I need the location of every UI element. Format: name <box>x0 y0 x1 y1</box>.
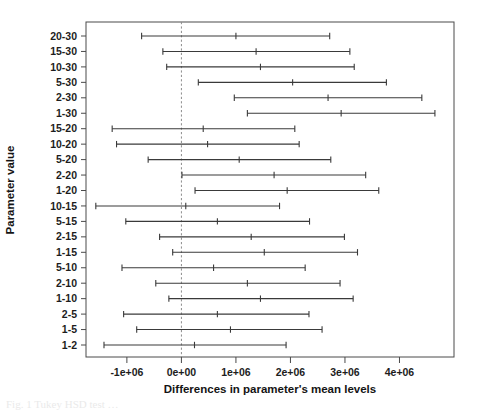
interval-row <box>167 64 355 70</box>
y-axis-tick-label: 15-30 <box>50 45 77 57</box>
y-axis-tick-label: 2-30 <box>56 91 77 103</box>
y-axis-tick-label: 5-10 <box>56 261 77 273</box>
y-axis-tick-label: 1-15 <box>56 246 77 258</box>
y-axis-tick-label: 10-30 <box>50 61 77 73</box>
y-axis-tick-label: 1-5 <box>62 323 77 335</box>
y-axis-tick-label: 10-20 <box>50 138 77 150</box>
y-axis-tick-label: 5-30 <box>56 76 77 88</box>
y-axis-tick-label: 5-15 <box>56 215 77 227</box>
x-axis-tick-label: 0e+00 <box>167 366 197 378</box>
interval-row <box>160 234 345 240</box>
x-axis-tick-label: 1e+06 <box>221 366 251 378</box>
interval-row <box>126 218 310 224</box>
interval-row <box>156 280 340 286</box>
confidence-interval-plot: 20-3015-3010-305-302-301-3015-2010-205-2… <box>0 0 477 417</box>
interval-row <box>104 342 286 348</box>
interval-row <box>182 172 366 178</box>
y-axis-tick-label: 2-10 <box>56 277 77 289</box>
y-axis-tick-label: 2-15 <box>56 230 77 242</box>
interval-row <box>198 79 386 85</box>
x-axis-tick-label: 4e+06 <box>385 366 415 378</box>
interval-row <box>195 187 379 193</box>
y-axis-title: Parameter value <box>4 146 16 235</box>
y-axis-tick-label: 2-20 <box>56 169 77 181</box>
figure-caption-fragment: Fig. 1 Tukey HSD test … <box>6 398 246 412</box>
y-axis-tick-label: 2-5 <box>62 308 77 320</box>
interval-row <box>163 48 350 54</box>
plot-border <box>86 22 454 357</box>
x-axis: -1e+060e+001e+062e+063e+064e+06 <box>110 357 414 378</box>
y-axis-tick-label: 1-30 <box>56 107 77 119</box>
chart-canvas: 20-3015-3010-305-302-301-3015-2010-205-2… <box>0 0 477 417</box>
interval-row <box>96 203 280 209</box>
interval-row <box>234 95 422 101</box>
interval-row <box>122 265 305 271</box>
plot-frame <box>86 22 454 357</box>
x-axis-tick-label: 3e+06 <box>330 366 360 378</box>
y-axis-tick-label: 1-2 <box>62 339 77 351</box>
y-axis-tick-label: 10-15 <box>50 200 77 212</box>
x-axis-title: Differences in parameter's mean levels <box>164 383 376 395</box>
interval-row <box>142 33 330 39</box>
interval-row <box>148 156 331 162</box>
interval-row <box>112 126 295 132</box>
x-axis-tick-label: -1e+06 <box>110 366 143 378</box>
y-axis: 20-3015-3010-305-302-301-3015-2010-205-2… <box>50 30 86 351</box>
interval-row <box>173 249 358 255</box>
interval-row <box>169 295 353 301</box>
interval-row <box>137 326 322 332</box>
interval-row <box>247 110 435 116</box>
interval-series <box>96 33 435 348</box>
y-axis-tick-label: 20-30 <box>50 30 77 42</box>
interval-row <box>117 141 300 147</box>
y-axis-tick-label: 15-20 <box>50 122 77 134</box>
y-axis-tick-label: 5-20 <box>56 153 77 165</box>
interval-row <box>124 311 309 317</box>
x-axis-tick-label: 2e+06 <box>276 366 306 378</box>
y-axis-tick-label: 1-20 <box>56 184 77 196</box>
y-axis-tick-label: 1-10 <box>56 292 77 304</box>
